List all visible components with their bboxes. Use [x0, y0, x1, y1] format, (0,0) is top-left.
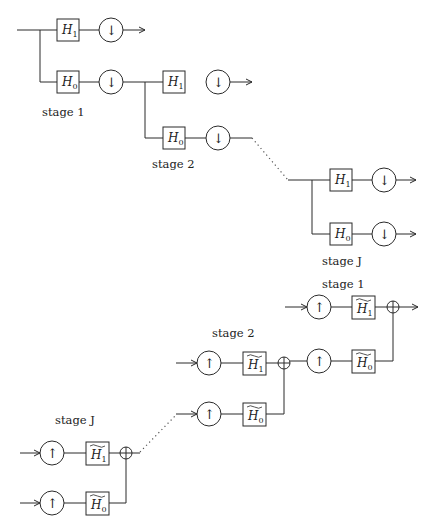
synthesis-s1-upsampler-low: ↑ [307, 349, 331, 373]
synthesis-s2-highpass-filter: H1 [243, 352, 266, 375]
svg-text:↑: ↑ [314, 300, 325, 315]
analysis-s2-downsampler-high: ↓ [206, 70, 230, 94]
synthesis-sj-highpass-filter: H1 [86, 442, 109, 465]
analysis-s1-highpass-filter: H1 [57, 19, 79, 41]
dotted-connector [252, 138, 288, 180]
stage-label: stage 1 [322, 277, 365, 291]
svg-text:↓: ↓ [106, 75, 117, 90]
svg-text:↓: ↓ [379, 173, 390, 188]
synthesis-s2-upsampler-high: ↑ [197, 351, 221, 375]
synthesis-s2-upsampler-low: ↑ [197, 402, 221, 426]
svg-text:↓: ↓ [213, 131, 224, 146]
synthesis-sj-upsampler-high: ↑ [40, 441, 64, 465]
analysis-s1-downsampler-high: ↓ [99, 18, 123, 42]
dotted-connector [140, 415, 176, 452]
synthesis-s1-sum-node [387, 301, 399, 313]
stage-label: stage 2 [212, 326, 255, 340]
filter-bank-diagram: H1 ↓ H0 ↓ stage 1 H1 ↓ [0, 0, 439, 531]
synthesis-sj-sum-node [120, 447, 132, 459]
analysis-s2-lowpass-filter: H0 [163, 127, 185, 149]
svg-text:↑: ↑ [204, 356, 215, 371]
synthesis-s1-highpass-filter: H1 [352, 296, 375, 319]
synthesis-s2-lowpass-filter: H0 [243, 403, 266, 426]
analysis-stage-j: H1 ↓ H0 ↓ stage J [288, 168, 416, 268]
analysis-s1-lowpass-filter: H0 [57, 71, 79, 93]
svg-text:↑: ↑ [47, 496, 58, 511]
svg-text:↓: ↓ [213, 75, 224, 90]
svg-text:↓: ↓ [106, 23, 117, 38]
synthesis-stage-j: stage J ↑ H1 H0 ↑ [20, 413, 140, 515]
svg-text:↑: ↑ [314, 354, 325, 369]
synthesis-s1-lowpass-filter: H0 [352, 350, 375, 373]
stage-label: stage 1 [42, 105, 85, 119]
synthesis-stage-2: stage 2 ↑ H1 H0 ↑ [176, 326, 290, 426]
stage-label: stage J [55, 413, 95, 427]
analysis-stage-2: H1 ↓ H0 ↓ stage 2 [145, 70, 252, 171]
analysis-sj-downsampler-high: ↓ [372, 168, 396, 192]
synthesis-sj-upsampler-low: ↑ [40, 491, 64, 515]
analysis-s2-highpass-filter: H1 [163, 71, 185, 93]
svg-text:↓: ↓ [379, 227, 390, 242]
stage-label: stage J [322, 254, 362, 268]
analysis-sj-downsampler-low: ↓ [372, 222, 396, 246]
synthesis-s1-upsampler-high: ↑ [307, 295, 331, 319]
analysis-s2-downsampler-low: ↓ [206, 126, 230, 150]
stage-label: stage 2 [152, 157, 195, 171]
analysis-sj-lowpass-filter: H0 [330, 223, 352, 245]
svg-text:↑: ↑ [204, 407, 215, 422]
synthesis-sj-lowpass-filter: H0 [86, 492, 109, 515]
svg-text:↑: ↑ [47, 446, 58, 461]
analysis-sj-highpass-filter: H1 [330, 169, 352, 191]
analysis-stage-1: H1 ↓ H0 ↓ stage 1 [17, 18, 163, 119]
synthesis-s2-sum-node [278, 357, 290, 369]
synthesis-stage-1: stage 1 ↑ H1 H0 ↑ [285, 277, 418, 373]
analysis-s1-downsampler-low: ↓ [99, 70, 123, 94]
